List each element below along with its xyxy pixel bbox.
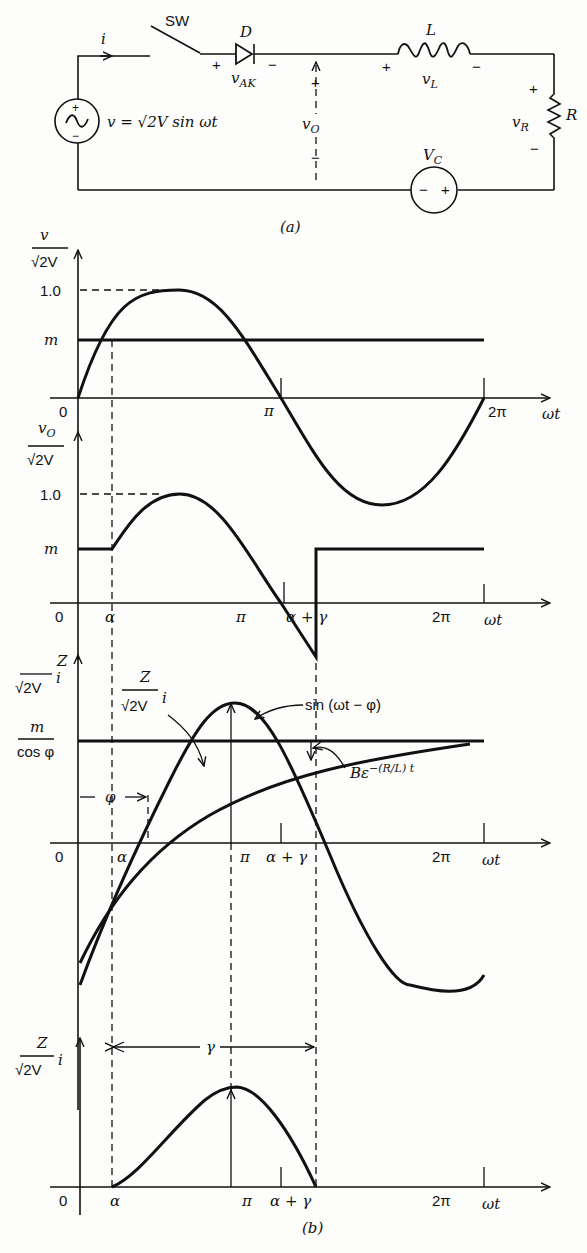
caption-b: (b): [302, 1219, 323, 1237]
plot2-level-m: m: [44, 540, 58, 558]
plot2-tick-alpha: α: [105, 608, 115, 626]
plot1-tick-2pi: 2π: [488, 403, 507, 420]
plot1-level-m: m: [44, 331, 58, 349]
inductor-minus: −: [472, 58, 481, 75]
diode-plus: +: [212, 56, 221, 73]
plot3-tick-alpha: α: [117, 848, 127, 866]
plot2-ylabel-den: √2V: [27, 451, 54, 468]
figure-canvas: i SW D + − vAK L + − vL R + − vR − + VC: [0, 0, 587, 1253]
plot4-tick-zero: 0: [59, 1192, 67, 1209]
annot-exp: Bε−(R/L) t: [349, 762, 415, 782]
plot4-tick-2pi: 2π: [432, 1192, 451, 1209]
plot3-level-den: cos φ: [17, 743, 55, 760]
plot2-tick-alpha-gamma: α + γ: [286, 608, 327, 626]
resistor-minus: −: [530, 140, 539, 157]
resistor-plus: +: [529, 80, 538, 97]
current-pulse-curve: [112, 1087, 316, 1187]
plot3-level-num: m: [30, 718, 44, 736]
plot2-level-one: 1.0: [40, 486, 61, 503]
source-minus: −: [72, 129, 79, 143]
wire-left-top: [78, 56, 150, 98]
diode-icon: [236, 44, 252, 64]
source-equation: v = √2V sin ωt: [107, 113, 218, 131]
current-label: i: [101, 30, 106, 48]
plot1-ylabel-den: √2V: [31, 253, 58, 270]
plot-current-components: φ Z √2V i sin (ωt − φ) Bε−(R/L) t Z √2V …: [15, 652, 550, 1110]
plot1-xlabel: ωt: [542, 405, 561, 423]
resistor-label: R: [565, 106, 577, 124]
plot1-level-one: 1.0: [40, 282, 61, 299]
phi-label: φ: [105, 788, 116, 806]
plot3-ylabel-i: i: [56, 669, 61, 687]
output-voltage-curve: [78, 494, 484, 657]
plot1-ylabel-num: v: [40, 226, 49, 244]
circuit-diagram: i SW D + − vAK L + − vL R + − vR − + VC: [55, 12, 577, 236]
diode-voltage: vAK: [231, 69, 256, 90]
inductor-plus: +: [382, 58, 391, 75]
dc-source-icon: [411, 167, 457, 213]
plot2-xlabel: ωt: [484, 611, 503, 629]
plot2-ylabel-num: vO: [38, 419, 56, 440]
source-plus: +: [72, 101, 79, 115]
plot3-tick-zero: 0: [55, 848, 63, 865]
battery-label: VC: [423, 146, 443, 167]
plot3-tick-2pi: 2π: [432, 848, 451, 865]
plot3-xlabel: ωt: [482, 851, 501, 869]
plot4-xlabel: ωt: [482, 1195, 501, 1213]
plot2-tick-pi: π: [235, 608, 247, 626]
diode-minus: −: [268, 56, 277, 73]
plot4-tick-alpha-gamma: α + γ: [270, 1192, 311, 1210]
annot-current-num: Z: [139, 668, 151, 686]
plot3-tick-pi: π: [239, 848, 251, 866]
plot1-tick-pi: π: [263, 402, 275, 420]
vc-minus: −: [419, 181, 428, 198]
resistor-voltage: vR: [512, 113, 529, 134]
switch-blade: [151, 26, 200, 53]
plot4-tick-pi: π: [241, 1192, 253, 1210]
plot2-tick-zero: 0: [55, 608, 63, 625]
caption-a: (a): [280, 218, 301, 236]
plot3-tick-alpha-gamma: α + γ: [266, 848, 307, 866]
plot2-tick-2pi: 2π: [432, 608, 451, 625]
plot4-tick-alpha: α: [110, 1192, 120, 1210]
annot-current-i: i: [162, 689, 167, 707]
plot4-ylabel-num: Z: [36, 1034, 48, 1052]
inductor-voltage: vL: [422, 70, 438, 91]
annot-sin: sin (ωt − φ): [305, 696, 381, 713]
inductor-label: L: [425, 21, 436, 39]
plot-source-voltage: v √2V 1.0 m 0 π 2π ωt: [31, 226, 561, 505]
plot4-ylabel-i: i: [58, 1051, 63, 1069]
switch-label: SW: [165, 12, 190, 29]
plot3-ylabel-num: Z: [56, 652, 68, 670]
annot-current-den: √2V: [121, 697, 148, 714]
vc-plus: +: [441, 181, 450, 198]
resistor-icon: [548, 54, 560, 190]
plot1-tick-zero: 0: [59, 403, 67, 420]
vo-minus: −: [311, 149, 320, 166]
plot4-ylabel-den: √2V: [15, 1061, 42, 1078]
inductor-icon: [398, 43, 470, 57]
gamma-label: γ: [206, 1038, 215, 1056]
plot3-ylabel-den: √2V: [15, 679, 42, 696]
plot-output-voltage: vO √2V 1.0 m 0 α π α + γ 2π ωt: [27, 419, 550, 660]
diode-label: D: [239, 23, 252, 41]
plot-load-current: γ Z √2V i 0 α π α + γ 2π ωt: [15, 1034, 550, 1215]
vo-plus: +: [311, 74, 320, 91]
